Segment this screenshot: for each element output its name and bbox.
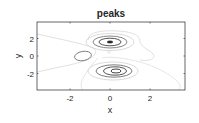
x-tick-label: 0 <box>108 94 113 103</box>
plot-area <box>37 22 185 92</box>
x-tick-label: 2 <box>148 94 153 103</box>
y-tick-label: 2 <box>30 35 35 44</box>
chart-title: peaks <box>97 8 126 19</box>
x-axis-label: x <box>108 105 113 115</box>
y-tick-label: 0 <box>30 52 35 61</box>
contour-figure: peaks <box>0 0 199 123</box>
y-tick-label: -2 <box>27 70 35 79</box>
x-tick-label: -2 <box>66 94 74 103</box>
y-axis-label: y <box>13 53 23 58</box>
contour-max-center <box>107 41 113 43</box>
